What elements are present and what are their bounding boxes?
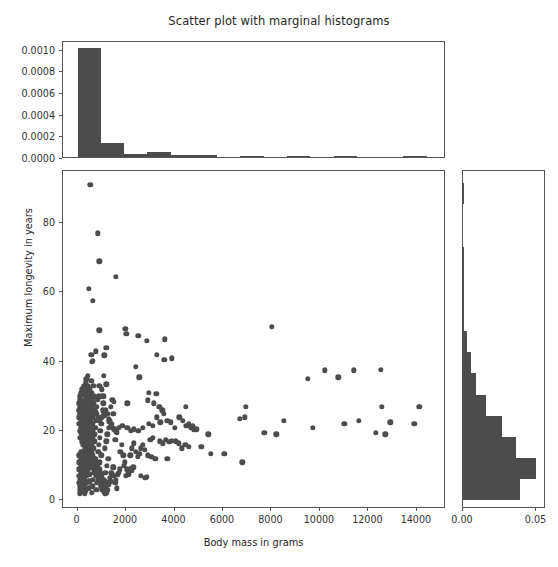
- scatter-points-layer: [63, 171, 444, 507]
- histogram-bar: [171, 155, 194, 157]
- scatter-point: [111, 411, 116, 416]
- scatter-point: [104, 463, 109, 468]
- axis-tick: [535, 508, 536, 511]
- scatter-point: [388, 420, 393, 425]
- scatter-point: [113, 274, 118, 279]
- scatter-point: [102, 353, 107, 358]
- scatter-point: [373, 430, 378, 435]
- axis-tick-label: 0.0002: [6, 131, 55, 142]
- scatter-point: [146, 390, 151, 395]
- scatter-point: [206, 432, 211, 437]
- axis-tick-label: 0.0006: [6, 88, 55, 99]
- scatter-point: [99, 414, 104, 419]
- axis-tick: [59, 499, 62, 500]
- scatter-point: [154, 352, 159, 357]
- scatter-point: [89, 359, 94, 364]
- scatter-point: [261, 430, 266, 435]
- scatter-point: [183, 404, 188, 409]
- scatter-point: [335, 375, 340, 380]
- histogram-bar: [463, 183, 464, 204]
- scatter-point: [383, 432, 388, 437]
- axis-tick: [59, 222, 62, 223]
- axis-tick: [59, 430, 62, 431]
- scatter-point: [97, 459, 102, 464]
- axis-tick-label: 4000: [161, 514, 185, 525]
- histogram-bar: [463, 289, 464, 310]
- scatter-plot-axes: [62, 170, 445, 508]
- histogram-bar: [463, 373, 476, 394]
- histogram-bar: [463, 416, 502, 437]
- scatter-point: [240, 459, 245, 464]
- scatter-point: [169, 355, 174, 360]
- axis-tick-label: 0.0004: [6, 109, 55, 120]
- scatter-point: [105, 487, 110, 492]
- scatter-point: [99, 453, 104, 458]
- histogram-bar: [463, 310, 464, 331]
- axis-tick: [77, 508, 78, 511]
- histogram-bar: [463, 331, 467, 352]
- scatter-point: [115, 472, 120, 477]
- scatter-point: [101, 394, 106, 399]
- scatter-point: [101, 401, 106, 406]
- axis-tick: [367, 508, 368, 511]
- histogram-bar: [403, 156, 426, 157]
- scatter-point: [165, 456, 170, 461]
- scatter-point: [221, 451, 226, 456]
- scatter-point: [145, 398, 150, 403]
- scatter-point: [128, 453, 133, 458]
- scatter-point: [137, 451, 142, 456]
- scatter-point: [144, 338, 149, 343]
- scatter-point: [305, 376, 310, 381]
- scatter-point: [125, 401, 130, 406]
- scatter-point: [322, 368, 327, 373]
- scatter-point: [86, 286, 91, 291]
- scatter-point: [112, 437, 117, 442]
- scatter-point: [417, 404, 422, 409]
- scatter-point: [140, 425, 145, 430]
- right-marginal-histogram: [462, 170, 545, 508]
- scatter-point: [105, 432, 110, 437]
- axis-tick: [174, 508, 175, 511]
- page-title: Scatter plot with marginal histograms: [0, 14, 558, 28]
- histogram-bar: [194, 155, 217, 157]
- scatter-point: [95, 231, 100, 236]
- scatter-point: [120, 453, 125, 458]
- axis-tick-label: 0.0008: [6, 66, 55, 77]
- histogram-bar: [287, 156, 310, 157]
- scatter-point: [103, 345, 108, 350]
- right-histogram-bars: [463, 171, 544, 507]
- axis-tick-label: 12000: [352, 514, 383, 525]
- histogram-bar: [124, 154, 147, 157]
- scatter-point: [269, 324, 274, 329]
- histogram-bar: [334, 156, 357, 157]
- scatter-point: [351, 368, 356, 373]
- scatter-point: [124, 331, 129, 336]
- scatter-point: [119, 442, 124, 447]
- scatter-point: [95, 397, 100, 402]
- scatter-point: [101, 373, 106, 378]
- scatter-point: [102, 446, 107, 451]
- axis-tick-label: 0: [73, 514, 79, 525]
- axis-tick: [59, 115, 62, 116]
- axis-tick: [59, 71, 62, 72]
- scatter-point: [135, 333, 140, 338]
- axis-tick-label: 20: [22, 425, 55, 436]
- axis-tick: [125, 508, 126, 511]
- scatter-point: [87, 182, 92, 187]
- scatter-point: [150, 423, 155, 428]
- scatter-point: [133, 364, 138, 369]
- scatter-point: [243, 404, 248, 409]
- scatter-point: [113, 477, 118, 482]
- scatter-point: [186, 444, 191, 449]
- axis-tick-label: 10000: [304, 514, 335, 525]
- axis-tick: [59, 361, 62, 362]
- scatter-point: [379, 404, 384, 409]
- axis-tick-label: 8000: [258, 514, 282, 525]
- histogram-bar: [463, 352, 471, 373]
- scatter-point: [96, 442, 101, 447]
- scatter-point: [97, 435, 102, 440]
- scatter-point: [378, 367, 383, 372]
- scatter-point: [93, 349, 98, 354]
- axis-tick: [416, 508, 417, 511]
- axis-tick-label: 0.0010: [6, 44, 55, 55]
